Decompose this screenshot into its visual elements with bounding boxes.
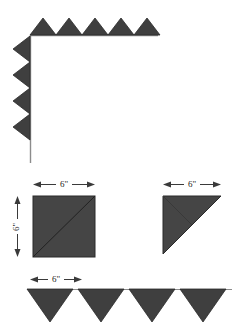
triangle-top-label: 6" bbox=[188, 179, 197, 189]
bottom-run-label: 6" bbox=[52, 274, 61, 284]
triangle-unit: 6" bbox=[163, 176, 221, 254]
tooth-top-2 bbox=[56, 18, 82, 35]
square-top-dim-arrow-left bbox=[33, 182, 41, 188]
corner-side-teeth bbox=[13, 36, 30, 140]
bottom-sawtooth-run: 6" bbox=[27, 271, 232, 322]
triangle-top-dim-arrow-right bbox=[213, 182, 221, 188]
tooth-side-2 bbox=[13, 62, 30, 88]
square-top-dim-arrow-right bbox=[87, 182, 95, 188]
tooth-bottom-1 bbox=[27, 289, 73, 322]
tooth-top-1 bbox=[30, 18, 56, 35]
corner-assembly bbox=[13, 18, 160, 163]
tooth-bottom-3 bbox=[129, 289, 175, 322]
tooth-side-4 bbox=[13, 114, 30, 140]
sawtooth-corner-diagram: 6" 6" 6" bbox=[0, 0, 245, 336]
square-left-dim-arrow-top bbox=[15, 196, 21, 204]
square-unit: 6" 6" bbox=[10, 176, 95, 257]
bottom-run-dim-arrow-right bbox=[74, 277, 82, 283]
tooth-bottom-4 bbox=[180, 289, 226, 322]
tooth-top-4 bbox=[108, 18, 134, 35]
tooth-side-1 bbox=[13, 36, 30, 62]
square-top-label: 6" bbox=[60, 179, 69, 189]
tooth-bottom-2 bbox=[78, 289, 124, 322]
tooth-top-5 bbox=[134, 18, 160, 35]
bottom-run-teeth bbox=[27, 289, 226, 322]
square-left-dim-arrow-bottom bbox=[15, 249, 21, 257]
triangle-top-dim-arrow-left bbox=[163, 182, 171, 188]
corner-top-teeth bbox=[30, 18, 160, 35]
bottom-run-dim-arrow-left bbox=[30, 277, 38, 283]
figure-root: 6" 6" 6" bbox=[0, 0, 245, 336]
square-left-label: 6" bbox=[11, 223, 21, 232]
tooth-side-3 bbox=[13, 88, 30, 114]
tooth-top-3 bbox=[82, 18, 108, 35]
